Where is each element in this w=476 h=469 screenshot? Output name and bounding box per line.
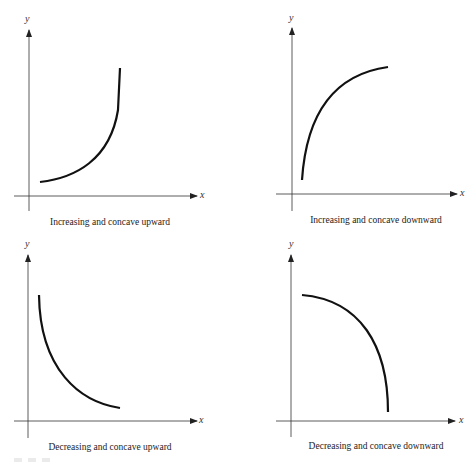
panel-increasing-concave-down xyxy=(276,28,457,211)
x-axis-label: x xyxy=(199,414,203,425)
panel-caption: Increasing and concave upward xyxy=(50,217,170,227)
panel-caption: Increasing and concave downward xyxy=(310,215,442,225)
panel-increasing-concave-up xyxy=(14,30,197,211)
faint-figure-caption-fragment xyxy=(14,458,54,462)
panel-caption: Decreasing and concave upward xyxy=(48,442,171,452)
figure-canvas xyxy=(0,0,476,469)
curve xyxy=(302,67,388,180)
curve xyxy=(40,68,120,182)
y-axis-label: y xyxy=(289,12,293,23)
y-axis-label: y xyxy=(289,238,293,249)
y-axis-label: y xyxy=(25,13,29,24)
x-axis-label: x xyxy=(200,189,204,200)
x-axis-label: x xyxy=(460,187,464,198)
curve xyxy=(302,295,388,412)
panel-decreasing-concave-up xyxy=(14,255,197,438)
x-axis-label: x xyxy=(459,414,463,425)
panel-caption: Decreasing and concave downward xyxy=(309,441,444,451)
panel-decreasing-concave-down xyxy=(276,255,455,437)
y-axis-label: y xyxy=(25,238,29,249)
curve xyxy=(39,295,120,408)
